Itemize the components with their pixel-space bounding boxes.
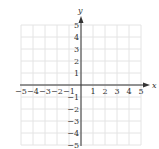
x-tick-label: 2 (102, 87, 107, 96)
x-tick-labels: −5−4−3−2−112345 (15, 87, 143, 96)
x-tick-label: 1 (90, 87, 95, 96)
y-tick-label: −5 (67, 141, 79, 149)
y-tick-label: 3 (74, 45, 79, 54)
y-tick-label: −3 (67, 117, 79, 126)
axes: x y (20, 6, 157, 146)
y-tick-label: 5 (74, 21, 79, 30)
x-tick-label: −2 (51, 87, 63, 96)
y-tick-label: −1 (67, 93, 79, 102)
y-tick-label: 1 (74, 69, 79, 78)
y-axis-label: y (77, 6, 83, 15)
y-tick-label: −4 (67, 129, 79, 138)
x-axis-arrow-icon (143, 83, 150, 88)
y-tick-label: 4 (74, 33, 79, 42)
y-axis-arrow-icon (79, 16, 84, 23)
x-tick-label: −4 (27, 87, 39, 96)
x-tick-label: 4 (126, 87, 131, 96)
y-tick-label: 2 (74, 57, 79, 66)
y-tick-label: −2 (67, 105, 79, 114)
x-tick-label: 5 (138, 87, 143, 96)
x-tick-label: −5 (15, 87, 27, 96)
coordinate-plane: x y −5−4−3−2−112345 54321−1−2−3−4−5 (0, 0, 159, 149)
x-axis-label: x (152, 81, 157, 90)
x-tick-label: −3 (39, 87, 51, 96)
x-tick-label: 3 (114, 87, 119, 96)
